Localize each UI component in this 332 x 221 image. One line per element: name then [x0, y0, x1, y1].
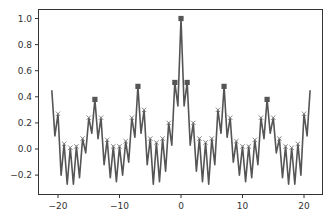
y-tick-label: 0.0 — [18, 144, 33, 154]
square-marker-icon — [135, 84, 140, 89]
y-axis: −0.20.00.20.40.60.81.0 — [10, 14, 38, 181]
square-marker-icon — [265, 97, 270, 102]
y-tick-label: 0.2 — [18, 118, 32, 128]
square-marker-icon — [178, 16, 183, 21]
x-axis: −20−1001020 — [49, 195, 310, 212]
square-marker-icon — [172, 80, 177, 85]
y-tick-label: 0.4 — [18, 92, 33, 102]
y-tick-label: 0.6 — [18, 66, 33, 76]
y-tick-label: −0.2 — [10, 170, 32, 180]
square-marker-icon — [221, 84, 226, 89]
square-marker-icon — [185, 80, 190, 85]
x-tick-label: 0 — [178, 201, 184, 211]
x-tick-label: 20 — [298, 201, 310, 211]
line-chart: −0.20.00.20.40.60.81.0 −20−1001020 — [0, 0, 332, 221]
square-marker-icon — [92, 97, 97, 102]
x-tick-label: −10 — [110, 201, 129, 211]
x-tick-label: 10 — [237, 201, 249, 211]
y-tick-label: 1.0 — [18, 14, 33, 24]
y-tick-label: 0.8 — [18, 40, 33, 50]
x-tick-label: −20 — [49, 201, 68, 211]
